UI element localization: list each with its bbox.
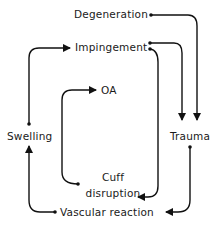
node-degeneration: Degeneration bbox=[74, 8, 148, 20]
edge-vascular-swelling bbox=[29, 146, 55, 212]
node-vascular-reaction: Vascular reaction bbox=[60, 206, 154, 218]
edge-impingement-trauma bbox=[150, 43, 182, 120]
edge-trauma-vascular bbox=[166, 147, 190, 212]
node-oa: OA bbox=[101, 84, 117, 96]
node-cuff-disruption: Cuff disruption bbox=[80, 171, 146, 199]
node-impingement: Impingement bbox=[75, 41, 147, 53]
cuff-line1: Cuff bbox=[80, 171, 146, 183]
node-trauma: Trauma bbox=[170, 130, 210, 142]
node-swelling: Swelling bbox=[7, 130, 52, 142]
edge-cuff-oa bbox=[62, 90, 96, 184]
cuff-line2: disruption bbox=[80, 187, 146, 199]
edge-swelling-impingement bbox=[29, 48, 70, 124]
arrows-layer bbox=[0, 0, 216, 238]
